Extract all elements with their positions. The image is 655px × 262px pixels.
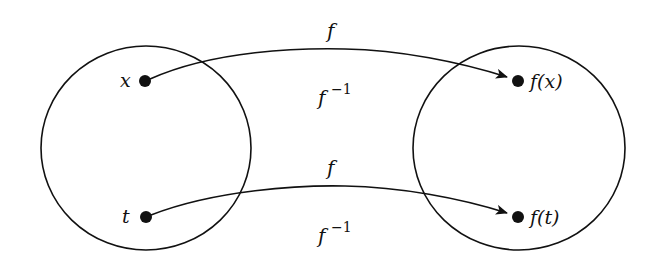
label-ft: f(t) <box>528 206 560 228</box>
label-bottom-finv: f <box>316 224 329 248</box>
label-x: x <box>120 69 131 91</box>
label-bottom-f: f <box>325 156 338 180</box>
arrow-x-to-fx <box>150 49 507 79</box>
point-x <box>139 75 151 87</box>
label-t: t <box>122 205 130 227</box>
point-t <box>140 211 152 223</box>
point-fx <box>512 75 524 87</box>
label-top-finv: f <box>316 86 329 110</box>
point-ft <box>512 211 524 223</box>
function-mapping-diagram: x t f(x) f(t) f f −1 f f −1 <box>0 0 655 262</box>
arrow-t-to-ft <box>151 186 507 215</box>
label-bottom-finv-exponent: −1 <box>331 219 352 235</box>
label-top-finv-exponent: −1 <box>331 81 352 97</box>
label-top-f: f <box>325 19 338 43</box>
label-fx: f(x) <box>528 70 563 92</box>
